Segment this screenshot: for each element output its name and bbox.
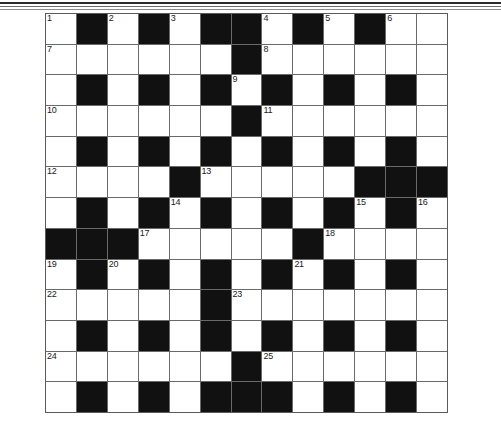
- grid-cell-entry[interactable]: 8: [262, 45, 292, 75]
- grid-cell-entry[interactable]: [108, 352, 138, 382]
- grid-cell-entry[interactable]: [108, 382, 138, 412]
- grid-cell-entry[interactable]: [324, 45, 354, 75]
- grid-cell-entry[interactable]: 23: [232, 290, 262, 320]
- grid-cell-entry[interactable]: 18: [324, 229, 354, 259]
- grid-cell-entry[interactable]: [355, 260, 385, 290]
- grid-cell-entry[interactable]: [77, 167, 107, 197]
- grid-cell-entry[interactable]: [170, 75, 200, 105]
- grid-cell-entry[interactable]: [355, 45, 385, 75]
- grid-cell-entry[interactable]: [232, 167, 262, 197]
- grid-cell-entry[interactable]: [170, 45, 200, 75]
- grid-cell-entry[interactable]: 25: [262, 352, 292, 382]
- grid-cell-entry[interactable]: 17: [139, 229, 169, 259]
- grid-cell-entry[interactable]: [386, 290, 416, 320]
- grid-cell-entry[interactable]: [262, 167, 292, 197]
- grid-cell-entry[interactable]: 12: [46, 167, 76, 197]
- grid-cell-entry[interactable]: [170, 137, 200, 167]
- grid-cell-entry[interactable]: [417, 75, 447, 105]
- grid-cell-entry[interactable]: 16: [417, 198, 447, 228]
- grid-cell-entry[interactable]: [77, 45, 107, 75]
- grid-cell-entry[interactable]: [324, 290, 354, 320]
- grid-cell-entry[interactable]: [355, 321, 385, 351]
- grid-cell-entry[interactable]: [77, 352, 107, 382]
- grid-cell-entry[interactable]: [417, 321, 447, 351]
- grid-cell-entry[interactable]: [170, 321, 200, 351]
- grid-cell-entry[interactable]: [77, 106, 107, 136]
- grid-cell-entry[interactable]: 6: [386, 14, 416, 44]
- grid-cell-entry[interactable]: [262, 229, 292, 259]
- grid-cell-entry[interactable]: [355, 106, 385, 136]
- grid-cell-entry[interactable]: [417, 290, 447, 320]
- grid-cell-entry[interactable]: [417, 14, 447, 44]
- grid-cell-entry[interactable]: [170, 229, 200, 259]
- grid-cell-entry[interactable]: [139, 167, 169, 197]
- crossword-grid[interactable]: 1234567891011121314151617181920212223242…: [45, 13, 448, 413]
- grid-cell-entry[interactable]: [386, 45, 416, 75]
- grid-cell-entry[interactable]: [201, 45, 231, 75]
- grid-cell-entry[interactable]: [355, 352, 385, 382]
- grid-cell-entry[interactable]: [170, 352, 200, 382]
- grid-cell-entry[interactable]: [417, 260, 447, 290]
- grid-cell-entry[interactable]: [293, 352, 323, 382]
- grid-cell-entry[interactable]: [417, 106, 447, 136]
- grid-cell-entry[interactable]: [262, 290, 292, 320]
- grid-cell-entry[interactable]: [324, 352, 354, 382]
- grid-cell-entry[interactable]: 11: [262, 106, 292, 136]
- grid-cell-entry[interactable]: [293, 45, 323, 75]
- grid-cell-entry[interactable]: [293, 321, 323, 351]
- grid-cell-entry[interactable]: 13: [201, 167, 231, 197]
- grid-cell-entry[interactable]: [201, 352, 231, 382]
- grid-cell-entry[interactable]: [108, 321, 138, 351]
- grid-cell-entry[interactable]: [108, 198, 138, 228]
- grid-cell-entry[interactable]: [170, 382, 200, 412]
- grid-cell-entry[interactable]: [293, 198, 323, 228]
- grid-cell-entry[interactable]: [170, 260, 200, 290]
- grid-cell-entry[interactable]: 24: [46, 352, 76, 382]
- grid-cell-entry[interactable]: [417, 352, 447, 382]
- grid-cell-entry[interactable]: 5: [324, 14, 354, 44]
- grid-cell-entry[interactable]: [293, 290, 323, 320]
- grid-cell-entry[interactable]: 14: [170, 198, 200, 228]
- grid-cell-entry[interactable]: [108, 290, 138, 320]
- grid-cell-entry[interactable]: [46, 382, 76, 412]
- grid-cell-entry[interactable]: [108, 167, 138, 197]
- grid-cell-entry[interactable]: 7: [46, 45, 76, 75]
- grid-cell-entry[interactable]: [139, 290, 169, 320]
- grid-cell-entry[interactable]: 3: [170, 14, 200, 44]
- grid-cell-entry[interactable]: [77, 290, 107, 320]
- grid-cell-entry[interactable]: [355, 75, 385, 105]
- grid-cell-entry[interactable]: [324, 106, 354, 136]
- grid-cell-entry[interactable]: [355, 290, 385, 320]
- grid-cell-entry[interactable]: [46, 75, 76, 105]
- grid-cell-entry[interactable]: [293, 75, 323, 105]
- grid-cell-entry[interactable]: [293, 382, 323, 412]
- grid-cell-entry[interactable]: [170, 290, 200, 320]
- grid-cell-entry[interactable]: [108, 106, 138, 136]
- grid-cell-entry[interactable]: [293, 137, 323, 167]
- grid-cell-entry[interactable]: 4: [262, 14, 292, 44]
- grid-cell-entry[interactable]: [170, 106, 200, 136]
- grid-cell-entry[interactable]: [386, 106, 416, 136]
- grid-cell-entry[interactable]: [232, 198, 262, 228]
- grid-cell-entry[interactable]: [232, 137, 262, 167]
- grid-cell-entry[interactable]: 15: [355, 198, 385, 228]
- grid-cell-entry[interactable]: [386, 352, 416, 382]
- grid-cell-entry[interactable]: 10: [46, 106, 76, 136]
- grid-cell-entry[interactable]: [46, 321, 76, 351]
- grid-cell-entry[interactable]: [417, 137, 447, 167]
- grid-cell-entry[interactable]: [355, 137, 385, 167]
- grid-cell-entry[interactable]: [417, 382, 447, 412]
- grid-cell-entry[interactable]: [46, 198, 76, 228]
- grid-cell-entry[interactable]: [324, 167, 354, 197]
- grid-cell-entry[interactable]: 2: [108, 14, 138, 44]
- grid-cell-entry[interactable]: [232, 229, 262, 259]
- grid-cell-entry[interactable]: 21: [293, 260, 323, 290]
- grid-cell-entry[interactable]: [417, 229, 447, 259]
- grid-cell-entry[interactable]: [139, 106, 169, 136]
- grid-cell-entry[interactable]: [232, 321, 262, 351]
- grid-cell-entry[interactable]: 22: [46, 290, 76, 320]
- grid-cell-entry[interactable]: [417, 45, 447, 75]
- grid-cell-entry[interactable]: [293, 167, 323, 197]
- grid-cell-entry[interactable]: [139, 45, 169, 75]
- grid-cell-entry[interactable]: [201, 229, 231, 259]
